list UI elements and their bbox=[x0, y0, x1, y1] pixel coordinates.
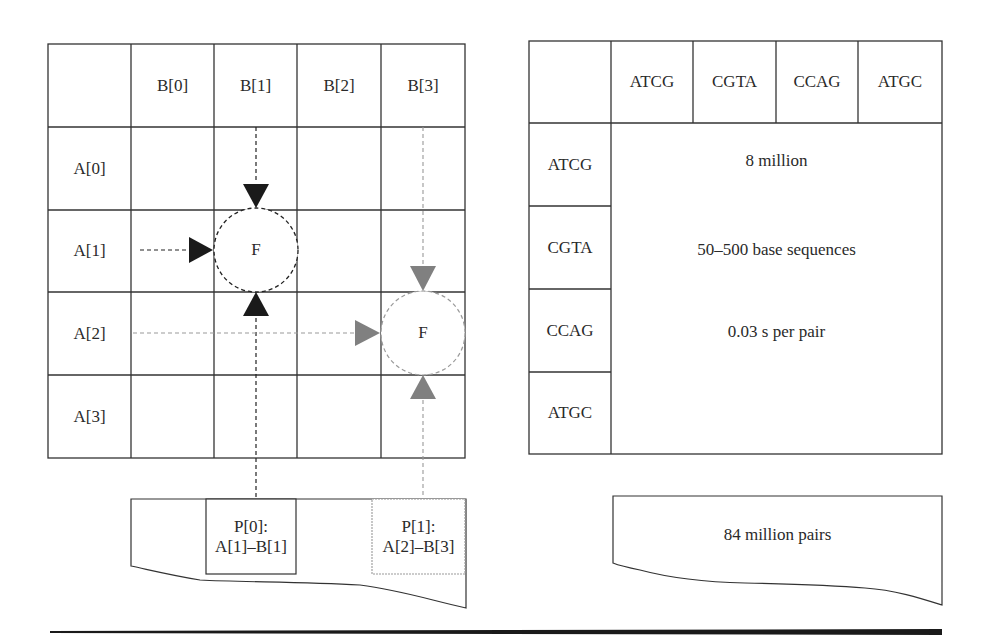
column-header-atcg: ATCG bbox=[611, 41, 693, 123]
row-header-a1: A[1] bbox=[48, 210, 131, 292]
column-header-cgta: CGTA bbox=[693, 41, 776, 123]
column-header-b2: B[2] bbox=[297, 44, 381, 127]
dataset-size-label: 8 million bbox=[611, 151, 942, 171]
row-header-a2: A[2] bbox=[48, 292, 131, 375]
row-header-a3: A[3] bbox=[48, 375, 131, 458]
arrow-right-icon bbox=[355, 320, 380, 346]
bottom-rule bbox=[50, 629, 942, 635]
function-node-1-label: F bbox=[236, 236, 276, 264]
arrow-down-icon bbox=[243, 184, 269, 208]
pair-1-value: A[2]–B[3] bbox=[383, 537, 455, 557]
function-node-2-label: F bbox=[403, 319, 443, 347]
row-header-cgta: CGTA bbox=[529, 206, 611, 289]
row-header-ccag: CCAG bbox=[529, 289, 611, 372]
flow-a1-b1 bbox=[140, 127, 298, 498]
row-header-atcg: ATCG bbox=[529, 123, 611, 206]
row-header-a0: A[0] bbox=[48, 127, 131, 210]
pair-box-1-text: P[1]: A[2]–B[3] bbox=[372, 502, 465, 572]
total-pairs-label: 84 million pairs bbox=[613, 525, 942, 545]
right-output-document bbox=[613, 496, 942, 605]
arrow-down-icon bbox=[410, 266, 436, 291]
row-header-atgc: ATGC bbox=[529, 372, 611, 454]
pair-0-value: A[1]–B[1] bbox=[215, 537, 287, 557]
pair-0-title: P[0]: bbox=[234, 517, 268, 537]
pair-1-title: P[1]: bbox=[402, 517, 436, 537]
arrow-up-icon bbox=[243, 292, 269, 316]
flow-a2-b3 bbox=[133, 127, 465, 498]
time-per-pair-label: 0.03 s per pair bbox=[611, 322, 942, 342]
column-header-b0: B[0] bbox=[131, 44, 214, 127]
column-header-b3: B[3] bbox=[381, 44, 465, 127]
pair-box-0-text: P[0]: A[1]–B[1] bbox=[206, 502, 296, 572]
column-header-b1: B[1] bbox=[214, 44, 297, 127]
arrow-up-icon bbox=[410, 375, 436, 399]
sequence-length-label: 50–500 base sequences bbox=[611, 240, 942, 260]
column-header-ccag: CCAG bbox=[776, 41, 858, 123]
column-header-atgc: ATGC bbox=[858, 41, 942, 123]
arrow-right-icon bbox=[189, 237, 213, 263]
